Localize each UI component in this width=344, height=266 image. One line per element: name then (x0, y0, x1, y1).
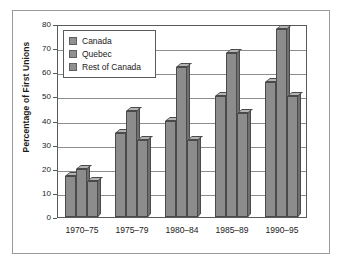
bar-front-face (287, 96, 298, 217)
bar (226, 53, 237, 217)
y-tick-label: 40 (25, 118, 51, 126)
legend-item: Canada (69, 35, 150, 47)
bar (287, 96, 298, 217)
y-tick-label: 70 (25, 45, 51, 53)
legend-label-quebec: Quebec (82, 49, 112, 59)
x-tick-label: 1975–79 (107, 225, 157, 235)
bar-front-face (126, 111, 137, 217)
bar-front-face (65, 176, 76, 217)
bar (137, 140, 148, 217)
x-tick-label: 1985–89 (207, 225, 257, 235)
legend-swatch-quebec (69, 50, 77, 58)
y-tick-label: 60 (25, 69, 51, 77)
bar-side-face (298, 93, 301, 217)
bar-side-face (248, 109, 251, 217)
bar-front-face (215, 96, 226, 217)
screenshot-canvas: Percentage of First Unions 8070605040302… (0, 0, 344, 266)
y-tick-label: 50 (25, 93, 51, 101)
legend-swatch-canada (69, 37, 77, 45)
bar (187, 140, 198, 217)
bar (276, 29, 287, 217)
bar (126, 111, 137, 217)
bar (115, 133, 126, 217)
legend-item: Rest of Canada (69, 61, 150, 73)
bar-front-face (115, 133, 126, 217)
bar-front-face (165, 121, 176, 218)
y-tick-mark (53, 218, 57, 219)
bar-front-face (87, 181, 98, 217)
bar (215, 96, 226, 217)
bar-front-face (276, 29, 287, 217)
legend-swatch-rest-of-canada (69, 63, 77, 71)
x-tick-label: 1990–95 (257, 225, 307, 235)
bar (87, 181, 98, 217)
y-tick-label: 0 (25, 214, 51, 222)
x-tick-label: 1970–75 (57, 225, 107, 235)
bar-side-face (98, 177, 101, 217)
y-tick-label: 80 (25, 21, 51, 29)
y-tick-label: 20 (25, 166, 51, 174)
bar-front-face (176, 67, 187, 217)
bar-front-face (226, 53, 237, 217)
x-tick-label: 1980–84 (157, 225, 207, 235)
bar (165, 121, 176, 218)
bar-side-face (198, 136, 201, 217)
bar-front-face (137, 140, 148, 217)
bar-front-face (187, 140, 198, 217)
bar (237, 113, 248, 217)
bar (265, 82, 276, 217)
chart-legend: Canada Quebec Rest of Canada (63, 30, 156, 78)
bar (176, 67, 187, 217)
y-tick-label: 30 (25, 142, 51, 150)
legend-label-rest-of-canada: Rest of Canada (82, 62, 141, 72)
bar (76, 169, 87, 217)
legend-item: Quebec (69, 48, 150, 60)
bar-side-face (148, 136, 151, 217)
y-tick-label: 10 (25, 190, 51, 198)
bar-front-face (265, 82, 276, 217)
bar-front-face (237, 113, 248, 217)
bar (65, 176, 76, 217)
legend-label-canada: Canada (82, 36, 112, 46)
bar-front-face (76, 169, 87, 217)
bar-chart-figure: Percentage of First Unions 8070605040302… (0, 0, 344, 266)
